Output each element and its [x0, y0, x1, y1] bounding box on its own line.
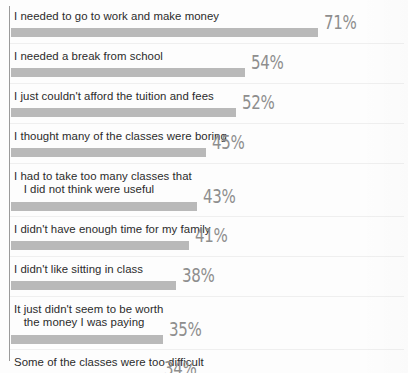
bar-category-label: It just didn't seem to be worth the mone… [14, 303, 163, 330]
bar-category-label: I just couldn't afford the tuition and f… [14, 90, 214, 103]
bar-value-label: 45% [212, 133, 244, 152]
row-separator [10, 43, 404, 44]
bar-row: It just didn't seem to be worth the mone… [0, 300, 408, 353]
bar-category-label: I thought many of the classes were borin… [14, 130, 227, 143]
plot-area: I needed to go to work and make money71%… [0, 0, 408, 373]
bar-row: I needed to go to work and make money71% [0, 7, 408, 47]
bar-category-label: I didn't have enough time for my family [14, 223, 211, 236]
bar-row: I just couldn't afford the tuition and f… [0, 87, 408, 127]
bar-value-label: 43% [203, 187, 235, 206]
bar [11, 28, 318, 37]
row-separator [10, 349, 404, 350]
bar-value-label: 71% [324, 13, 356, 32]
bar-row: I thought many of the classes were borin… [0, 127, 408, 167]
row-separator [10, 296, 404, 297]
bar-row: Some of the classes were too difficult34… [0, 353, 408, 373]
bar-value-label: 34% [164, 359, 196, 373]
bar [11, 108, 236, 117]
row-separator [10, 256, 404, 257]
bar-category-label: I needed to go to work and make money [14, 10, 219, 23]
row-separator [10, 216, 404, 217]
bar-value-label: 38% [182, 266, 214, 285]
row-separator [10, 83, 404, 84]
bar-value-label: 41% [195, 226, 227, 245]
bar-row: I didn't have enough time for my family4… [0, 220, 408, 260]
row-separator [10, 163, 404, 164]
bar [11, 68, 245, 77]
bar-value-label: 52% [242, 93, 274, 112]
bar [11, 148, 206, 157]
bar [11, 335, 163, 344]
bar-row: I needed a break from school54% [0, 47, 408, 87]
bar-value-label: 54% [251, 53, 283, 72]
bar [11, 281, 176, 290]
row-separator [10, 123, 404, 124]
bar-row: I had to take too many classes that I di… [0, 167, 408, 220]
bar-value-label: 35% [169, 320, 201, 339]
bar-chart: I needed to go to work and make money71%… [0, 0, 408, 373]
bar-category-label: I had to take too many classes that I di… [14, 170, 192, 197]
bar [11, 202, 197, 211]
bar-category-label: I didn't like sitting in class [14, 263, 143, 276]
bar-category-label: I needed a break from school [14, 50, 163, 63]
bar-row: I didn't like sitting in class38% [0, 260, 408, 300]
bar [11, 241, 189, 250]
